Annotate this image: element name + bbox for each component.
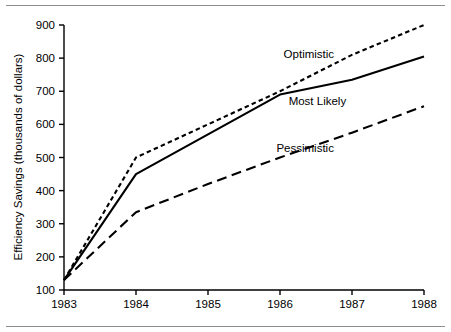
x-tick-label: 1988 xyxy=(411,298,437,310)
x-tick-label: 1986 xyxy=(267,298,293,310)
y-tick-label: 200 xyxy=(36,251,55,263)
y-tick-label: 300 xyxy=(36,218,55,230)
x-tick-label: 1985 xyxy=(195,298,221,310)
series-label-optimistic: Optimistic xyxy=(284,48,335,60)
axes xyxy=(64,25,424,290)
y-tick-label: 700 xyxy=(36,85,55,97)
y-axis-tick-labels: 100200300400500600700800900 xyxy=(36,19,55,296)
x-tick-label: 1987 xyxy=(339,298,365,310)
chart-figure: 100200300400500600700800900 198319841985… xyxy=(0,0,451,332)
series-label-pessimistic: Pessimistic xyxy=(276,142,334,154)
x-tick-label: 1983 xyxy=(51,298,77,310)
y-tick-label: 600 xyxy=(36,118,55,130)
bottom-horizontal-rule xyxy=(6,326,445,327)
series-label-most-likely: Most Likely xyxy=(289,95,347,107)
y-tick-label: 400 xyxy=(36,185,55,197)
x-axis-tick-labels: 198319841985198619871988 xyxy=(51,298,437,310)
y-tick-label: 100 xyxy=(36,284,55,296)
data-series-group xyxy=(64,25,424,280)
x-axis-ticks xyxy=(64,290,424,295)
series-line-pessimistic xyxy=(64,106,424,280)
y-tick-label: 800 xyxy=(36,52,55,64)
y-axis-title: Efficiency Savings (thousands of dollars… xyxy=(12,53,24,260)
top-horizontal-rule xyxy=(6,5,445,6)
y-tick-label: 500 xyxy=(36,152,55,164)
x-tick-label: 1984 xyxy=(123,298,149,310)
line-chart-plot: 100200300400500600700800900 198319841985… xyxy=(0,0,451,332)
y-axis-ticks xyxy=(59,25,64,290)
series-line-most-likely xyxy=(64,56,424,280)
y-tick-label: 900 xyxy=(36,19,55,31)
series-line-optimistic xyxy=(64,25,424,280)
